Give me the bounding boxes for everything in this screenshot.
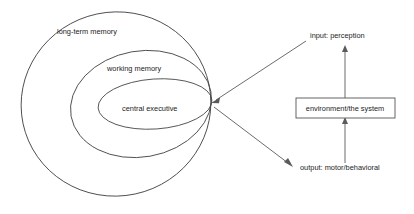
diagram-canvas: long-term memory working memory central … bbox=[0, 0, 414, 214]
memory-model-diagram: long-term memory working memory central … bbox=[0, 0, 414, 214]
long-term-memory-label: long-term memory bbox=[57, 27, 117, 36]
input-arrow-head bbox=[211, 98, 220, 104]
working-memory-label: working memory bbox=[106, 64, 162, 73]
environment-system-label: environment/the system bbox=[306, 104, 384, 113]
output-motor-behavioral-label: output: motor/behavioral bbox=[300, 163, 380, 172]
input-perception-label: input: perception bbox=[310, 31, 365, 40]
output-arrow-line bbox=[214, 107, 288, 163]
system-to-input-arrow-head bbox=[342, 45, 348, 52]
input-arrow-line bbox=[216, 41, 306, 100]
output-arrow-head bbox=[284, 158, 293, 167]
central-executive-label: central executive bbox=[122, 104, 177, 113]
